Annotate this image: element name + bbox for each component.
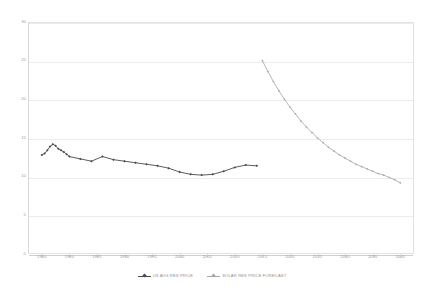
series-marker — [245, 164, 248, 167]
series-marker — [178, 171, 181, 174]
series-marker — [145, 163, 148, 166]
legend-label: SOLAR RES PRICE FORECAST — [222, 274, 286, 278]
series-marker — [223, 170, 226, 173]
legend-item[interactable]: US AVG RES PRICE — [138, 274, 194, 279]
series-marker — [167, 167, 170, 170]
series-line — [262, 61, 400, 183]
legend-swatch-icon — [138, 274, 151, 279]
series-marker — [101, 155, 104, 158]
series-line — [42, 144, 257, 175]
series-solar-res-price-forecast — [261, 60, 401, 184]
series-marker — [90, 160, 93, 163]
series-marker — [234, 166, 237, 169]
series-marker — [112, 158, 115, 161]
series-marker — [211, 173, 214, 176]
series-marker — [200, 174, 203, 177]
chart-container: 051015202530 196019801985199019952000200… — [0, 0, 424, 291]
legend-item[interactable]: SOLAR RES PRICE FORECAST — [207, 274, 286, 279]
data-series-layer — [0, 0, 424, 291]
chart-legend: US AVG RES PRICESOLAR RES PRICE FORECAST — [0, 270, 424, 282]
series-us-avg-res-price — [41, 143, 259, 176]
series-marker — [189, 173, 192, 176]
legend-label: US AVG RES PRICE — [153, 274, 194, 278]
series-marker — [256, 165, 259, 168]
series-marker — [79, 158, 82, 161]
series-marker — [156, 165, 159, 168]
series-marker — [134, 162, 137, 165]
series-marker — [123, 160, 126, 163]
legend-swatch-icon — [207, 274, 220, 279]
